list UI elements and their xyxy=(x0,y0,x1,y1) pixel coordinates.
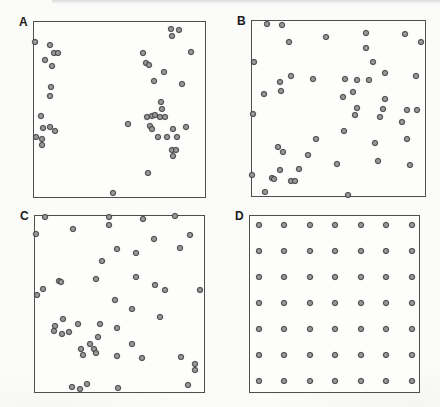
data-point xyxy=(358,378,364,384)
data-point xyxy=(382,70,388,76)
data-point xyxy=(106,214,112,220)
data-point xyxy=(177,245,183,251)
data-point xyxy=(151,236,157,242)
panel-b-plot: B xyxy=(251,20,426,197)
data-point xyxy=(158,99,164,105)
data-point xyxy=(409,274,415,280)
data-point xyxy=(313,136,319,142)
data-point xyxy=(168,26,174,32)
data-point xyxy=(40,286,46,292)
data-point xyxy=(187,232,193,238)
data-point xyxy=(140,50,146,56)
data-point xyxy=(307,378,313,384)
data-point xyxy=(32,39,38,45)
data-point xyxy=(151,78,157,84)
data-point xyxy=(60,316,66,322)
data-point xyxy=(48,84,54,90)
data-point xyxy=(39,142,45,148)
data-point xyxy=(95,334,101,340)
data-point xyxy=(97,321,103,327)
data-point xyxy=(383,326,389,332)
data-point xyxy=(176,27,182,33)
data-point xyxy=(358,300,364,306)
data-point xyxy=(49,63,55,69)
data-point xyxy=(40,125,46,131)
data-point xyxy=(409,222,415,228)
data-point xyxy=(93,276,99,282)
data-point xyxy=(159,106,165,112)
data-point xyxy=(271,176,277,182)
data-point xyxy=(418,39,424,45)
data-point xyxy=(413,73,419,79)
data-point xyxy=(281,300,287,306)
data-point xyxy=(340,94,346,100)
data-point xyxy=(409,326,415,332)
data-point xyxy=(112,297,118,303)
data-point xyxy=(399,119,405,125)
data-point xyxy=(341,128,347,134)
data-point xyxy=(110,190,116,196)
data-point xyxy=(358,222,364,228)
data-point xyxy=(34,292,40,298)
data-point xyxy=(59,331,65,337)
data-point xyxy=(55,50,61,56)
data-point xyxy=(106,222,112,228)
page-scan-band xyxy=(52,0,440,4)
data-point xyxy=(174,134,180,140)
data-point xyxy=(249,172,255,178)
data-point xyxy=(332,300,338,306)
data-point xyxy=(307,222,313,228)
data-point xyxy=(197,287,203,293)
data-point xyxy=(256,274,262,280)
data-point xyxy=(358,248,364,254)
data-point xyxy=(382,96,388,102)
data-point xyxy=(129,341,135,347)
data-point xyxy=(192,367,198,373)
data-point xyxy=(332,274,338,280)
data-point xyxy=(169,33,175,39)
data-point xyxy=(281,248,287,254)
data-point xyxy=(281,274,287,280)
data-point xyxy=(277,167,283,173)
data-point xyxy=(256,300,262,306)
data-point xyxy=(75,321,81,327)
data-point xyxy=(188,49,194,55)
data-point xyxy=(256,352,262,358)
data-point xyxy=(66,329,72,335)
data-point xyxy=(286,39,292,45)
data-point xyxy=(407,162,413,168)
data-point xyxy=(114,246,120,252)
data-point xyxy=(332,248,338,254)
scanned-figure-page: A B C D xyxy=(0,0,440,407)
panel-a-plot: A xyxy=(33,21,206,198)
data-point xyxy=(256,222,262,228)
data-point xyxy=(375,158,381,164)
data-point xyxy=(146,62,152,68)
data-point xyxy=(161,69,167,75)
data-point xyxy=(115,385,121,391)
data-point xyxy=(332,378,338,384)
data-point xyxy=(366,77,372,83)
data-point xyxy=(170,126,176,132)
data-point xyxy=(93,350,99,356)
data-point xyxy=(170,153,176,159)
data-point xyxy=(250,111,256,117)
data-point xyxy=(307,248,313,254)
data-point xyxy=(281,326,287,332)
data-point xyxy=(261,91,267,97)
data-point xyxy=(323,34,329,40)
data-point xyxy=(372,140,378,146)
data-point xyxy=(332,326,338,332)
data-point xyxy=(51,328,57,334)
data-point xyxy=(52,128,58,134)
data-point xyxy=(354,77,360,83)
data-point xyxy=(47,42,53,48)
data-point xyxy=(256,248,262,254)
data-point xyxy=(256,326,262,332)
data-point xyxy=(47,93,53,99)
data-point xyxy=(145,170,151,176)
panel-c-plot: C xyxy=(34,215,205,393)
data-point xyxy=(114,325,120,331)
data-point xyxy=(383,274,389,280)
data-point xyxy=(157,314,163,320)
